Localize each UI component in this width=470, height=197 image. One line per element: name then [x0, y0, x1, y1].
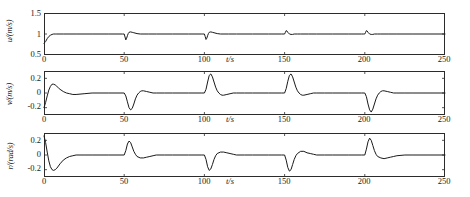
curve-v — [44, 71, 445, 115]
x-tick-label: 100 — [187, 115, 221, 124]
x-tick-label: 0 — [27, 55, 61, 64]
y-tick-label: 1.5 — [15, 9, 41, 18]
y-tick-label: 1 — [15, 30, 41, 39]
curve-u — [44, 13, 445, 55]
y-axis-label-v: v/(m/s) — [4, 68, 14, 120]
x-tick-label: 250 — [427, 115, 461, 124]
x-tick-label: 150 — [267, 115, 301, 124]
x-tick-label: 150 — [267, 177, 301, 186]
figure-container: u/(m/s) 1.5 1 0.5 0 50 100 150 200 250 t… — [0, 0, 470, 197]
x-tick-label: 100 — [187, 55, 221, 64]
x-tick-label: 50 — [107, 115, 141, 124]
y-axis-label-u: u/(m/s) — [4, 5, 14, 57]
x-tick-label: 0 — [27, 115, 61, 124]
y-axis-label-r: r/(rad/s) — [5, 128, 15, 184]
x-tick-label: 50 — [107, 177, 141, 186]
x-tick-label: 200 — [347, 115, 381, 124]
x-axis-label-r: t/s — [226, 177, 234, 186]
y-tick-label: 0.2 — [15, 74, 41, 83]
x-axis-label-u: t/s — [226, 55, 234, 64]
y-tick-label: -0.2 — [15, 102, 41, 111]
y-tick-label: -0.2 — [15, 164, 41, 173]
x-tick-label: 250 — [427, 55, 461, 64]
x-tick-label: 250 — [427, 177, 461, 186]
y-tick-label: 0.2 — [15, 136, 41, 145]
x-tick-label: 200 — [347, 177, 381, 186]
curve-r — [44, 133, 445, 177]
y-tick-label: 0 — [15, 88, 41, 97]
x-tick-label: 100 — [187, 177, 221, 186]
x-tick-label: 50 — [107, 55, 141, 64]
x-tick-label: 150 — [267, 55, 301, 64]
x-tick-label: 0 — [27, 177, 61, 186]
y-tick-label: 0 — [15, 150, 41, 159]
x-tick-label: 200 — [347, 55, 381, 64]
x-axis-label-v: t/s — [226, 115, 234, 124]
